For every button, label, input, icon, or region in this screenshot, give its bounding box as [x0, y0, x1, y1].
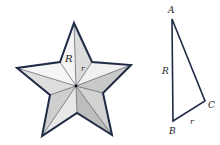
triangle-label-R: R	[161, 66, 169, 76]
triangle-label-B: B	[168, 126, 176, 136]
star-figure: R r	[17, 23, 131, 136]
triangle-label-r: r	[190, 117, 195, 126]
triangle-outline	[172, 19, 205, 121]
diagram-canvas: R r A B C R r	[0, 0, 220, 145]
triangle-label-A: A	[167, 5, 175, 15]
triangle-label-C: C	[208, 100, 215, 110]
star-center-dot	[75, 85, 78, 88]
star-label-R: R	[64, 53, 73, 64]
triangle-figure: A B C R r	[161, 5, 215, 136]
